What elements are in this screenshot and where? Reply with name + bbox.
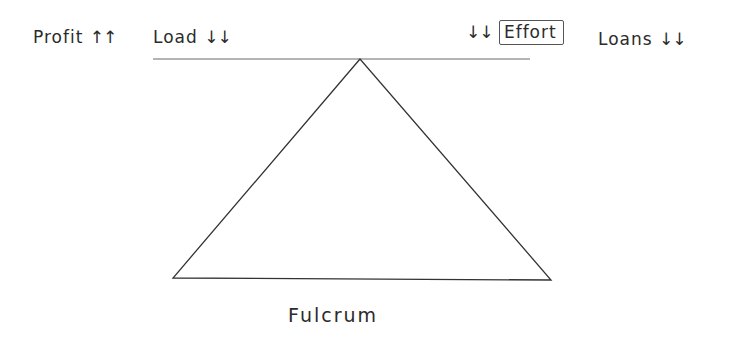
fulcrum-label: Fulcrum — [288, 304, 378, 326]
arrow-down-icon: ↓↓ — [466, 22, 493, 42]
load-label: Load ↓↓ — [153, 27, 231, 47]
loans-label: Loans ↓↓ — [598, 29, 686, 49]
fulcrum-triangle — [173, 59, 551, 280]
load-text: Load — [153, 27, 198, 47]
arrow-down-icon: ↓↓ — [659, 29, 686, 49]
profit-text: Profit — [33, 27, 83, 47]
effort-text: Effort — [504, 22, 557, 42]
lever-diagram: Profit ↑↑ Load ↓↓ ↓↓ Effort Loans ↓↓ Ful… — [0, 0, 731, 345]
effort-box: Effort — [499, 20, 564, 45]
effort-label: ↓↓ Effort — [466, 20, 564, 45]
profit-label: Profit ↑↑ — [33, 27, 116, 47]
loans-text: Loans — [598, 29, 653, 49]
lever-drawing — [0, 0, 731, 345]
arrow-down-icon: ↓↓ — [204, 27, 231, 47]
arrow-up-icon: ↑↑ — [90, 27, 117, 47]
